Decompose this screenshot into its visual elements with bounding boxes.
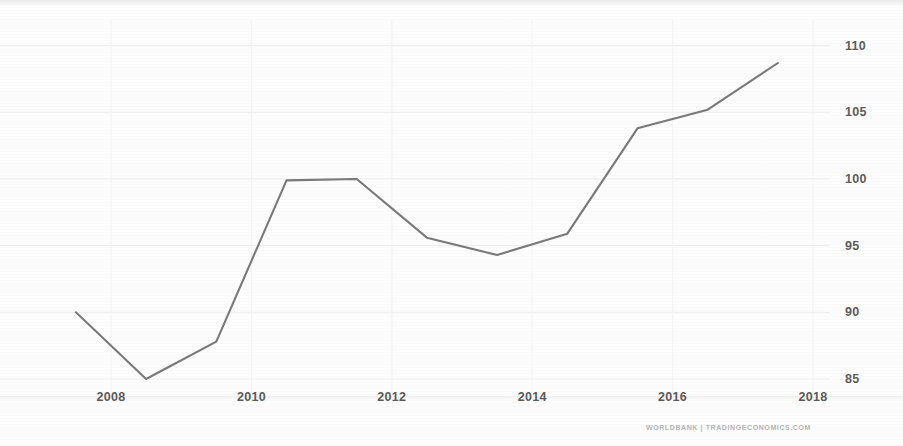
x-axis-tick-label: 2012 — [377, 390, 406, 404]
y-axis-tick-label: 110 — [845, 39, 866, 53]
chart-attribution: WORLDBANK | TRADINGECONOMICS.COM — [646, 424, 811, 431]
x-axis-tick-label: 2008 — [96, 390, 125, 404]
gridlines — [0, 20, 830, 392]
y-axis-tick-label: 95 — [845, 239, 860, 253]
x-axis-tick-label: 2014 — [518, 390, 547, 404]
line-chart-plot — [0, 0, 903, 446]
y-axis-tick-label: 85 — [845, 372, 860, 386]
y-axis-tick-label: 90 — [845, 305, 860, 319]
x-axis-tick-label: 2010 — [237, 390, 266, 404]
chart-screenshot: 110105100959085 200820102012201420162018… — [0, 0, 903, 446]
y-axis-tick-label: 100 — [845, 172, 867, 186]
x-axis-tick-label: 2016 — [658, 390, 687, 404]
y-axis-tick-label: 105 — [845, 105, 867, 119]
x-axis-tick-label: 2018 — [798, 390, 827, 404]
